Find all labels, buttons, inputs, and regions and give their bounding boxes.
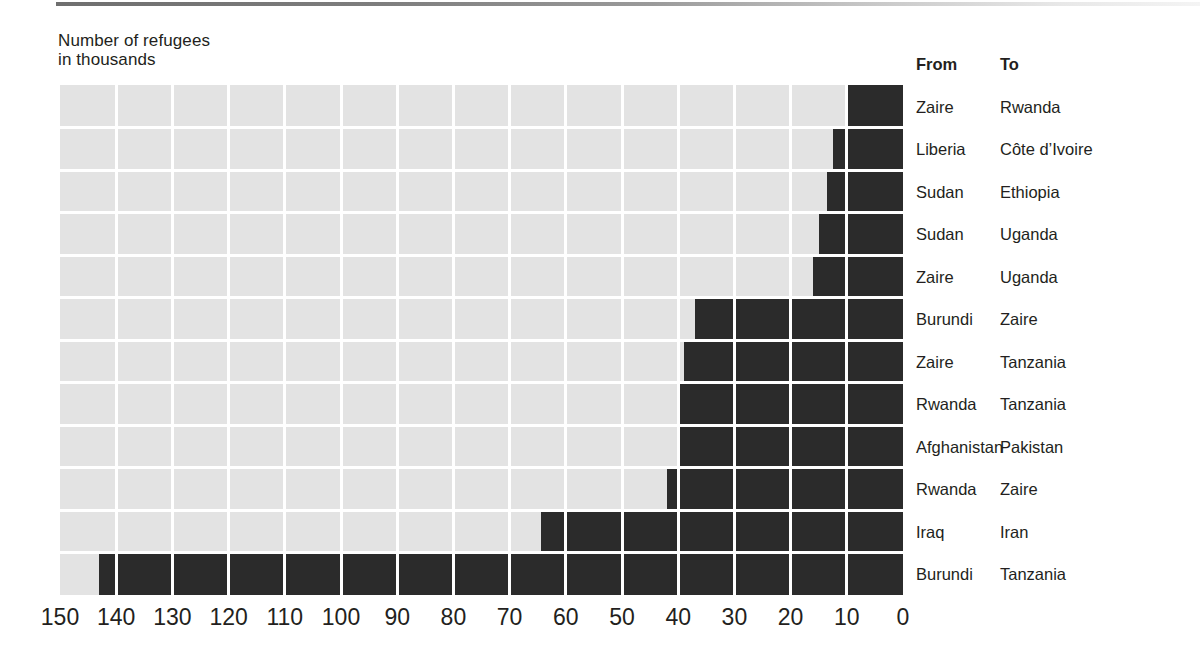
cell-origin-country: Afghanistan: [916, 435, 1003, 459]
bar: [819, 213, 903, 256]
series-label-table: From To ZaireRwandaLiberiaCôte d’IvoireS…: [916, 52, 1200, 605]
x-axis-tick-label: 130: [153, 604, 191, 631]
cell-destination-country: Zaire: [1000, 307, 1038, 331]
x-axis-tick-labels: 1501401301201101009080706050403020100: [0, 604, 930, 644]
x-axis-tick-label: 60: [553, 604, 579, 631]
x-axis-tick-label: 90: [384, 604, 410, 631]
cell-destination-country: Uganda: [1000, 265, 1058, 289]
x-axis-tick-label: 40: [665, 604, 691, 631]
cell-destination-country: Ethiopia: [1000, 180, 1060, 204]
cell-destination-country: Iran: [1000, 520, 1028, 544]
chart-plot-area: [60, 85, 903, 595]
cell-destination-country: Zaire: [1000, 477, 1038, 501]
gridline-horizontal: [60, 296, 903, 299]
table-row: LiberiaCôte d’Ivoire: [916, 137, 1200, 180]
table-row: RwandaZaire: [916, 477, 1200, 520]
cell-destination-country: Tanzania: [1000, 350, 1066, 374]
x-axis-tick-label: 80: [441, 604, 467, 631]
cell-origin-country: Zaire: [916, 265, 954, 289]
bar: [541, 510, 903, 553]
gridline-horizontal: [60, 126, 903, 129]
table-row: RwandaTanzania: [916, 392, 1200, 435]
table-row: SudanEthiopia: [916, 180, 1200, 223]
gridline-horizontal: [60, 169, 903, 172]
chart-axis-title: Number of refugees in thousands: [58, 31, 210, 69]
top-horizontal-rule: [56, 2, 1200, 6]
gridline-horizontal: [60, 381, 903, 384]
gridline-horizontal: [60, 551, 903, 554]
table-row: BurundiTanzania: [916, 562, 1200, 605]
x-axis-tick-label: 150: [41, 604, 79, 631]
gridline-horizontal: [60, 211, 903, 214]
table-row: ZaireUganda: [916, 265, 1200, 308]
cell-origin-country: Iraq: [916, 520, 944, 544]
gridline-horizontal: [60, 339, 903, 342]
table-row: ZaireRwanda: [916, 95, 1200, 138]
table-row: ZaireTanzania: [916, 350, 1200, 393]
x-axis-tick-label: 70: [497, 604, 523, 631]
cell-destination-country: Tanzania: [1000, 562, 1066, 586]
bar: [99, 553, 903, 596]
cell-destination-country: Côte d’Ivoire: [1000, 137, 1093, 161]
cell-origin-country: Zaire: [916, 95, 954, 119]
table-row: IraqIran: [916, 520, 1200, 563]
bar: [827, 170, 903, 213]
cell-destination-country: Pakistan: [1000, 435, 1063, 459]
column-header-to: To: [1000, 52, 1019, 76]
x-axis-tick-label: 30: [722, 604, 748, 631]
cell-origin-country: Sudan: [916, 222, 964, 246]
bar: [847, 85, 903, 128]
cell-origin-country: Liberia: [916, 137, 966, 161]
cell-origin-country: Burundi: [916, 307, 973, 331]
cell-destination-country: Rwanda: [1000, 95, 1061, 119]
gridline-horizontal: [60, 509, 903, 512]
table-row: SudanUganda: [916, 222, 1200, 265]
gridline-horizontal: [60, 466, 903, 469]
x-axis-tick-label: 100: [322, 604, 360, 631]
cell-destination-country: Tanzania: [1000, 392, 1066, 416]
bar: [833, 128, 903, 171]
x-axis-tick-label: 0: [897, 604, 910, 631]
bar: [684, 340, 903, 383]
x-axis-tick-label: 120: [209, 604, 247, 631]
column-header-from: From: [916, 52, 957, 76]
cell-origin-country: Zaire: [916, 350, 954, 374]
x-axis-tick-label: 110: [266, 604, 303, 631]
bar: [695, 298, 903, 341]
cell-origin-country: Rwanda: [916, 477, 977, 501]
table-row: BurundiZaire: [916, 307, 1200, 350]
x-axis-tick-label: 140: [97, 604, 135, 631]
x-axis-tick-label: 50: [609, 604, 635, 631]
cell-destination-country: Uganda: [1000, 222, 1058, 246]
bar: [813, 255, 903, 298]
cell-origin-country: Sudan: [916, 180, 964, 204]
x-axis-tick-label: 10: [834, 604, 860, 631]
gridline-horizontal: [60, 254, 903, 257]
bar: [667, 468, 903, 511]
table-row: AfghanistanPakistan: [916, 435, 1200, 478]
gridline-horizontal: [60, 424, 903, 427]
cell-origin-country: Burundi: [916, 562, 973, 586]
x-axis-tick-label: 20: [778, 604, 804, 631]
table-header-row: From To: [916, 52, 1200, 95]
cell-origin-country: Rwanda: [916, 392, 977, 416]
